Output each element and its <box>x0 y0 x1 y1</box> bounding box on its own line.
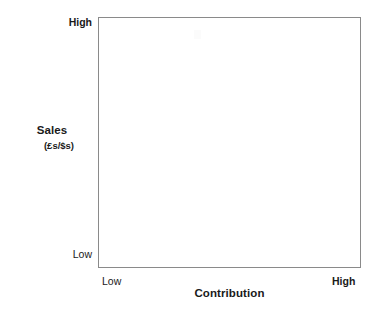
y-axis-title-text: Sales <box>8 124 96 137</box>
y-axis-tick-high: High <box>12 16 92 28</box>
y-axis-tick-low: Low <box>12 248 92 260</box>
y-axis-title: Sales (£s/$s) <box>8 124 96 152</box>
plot-area <box>98 17 361 268</box>
y-axis-title-unit: (£s/$s) <box>8 139 96 152</box>
chart-container: High Low Sales (£s/$s) Low High Contribu… <box>0 0 375 323</box>
chart-title-cutoff <box>105 0 290 3</box>
x-axis-title: Contribution <box>98 286 361 300</box>
plot-artifact-speck <box>194 30 201 39</box>
